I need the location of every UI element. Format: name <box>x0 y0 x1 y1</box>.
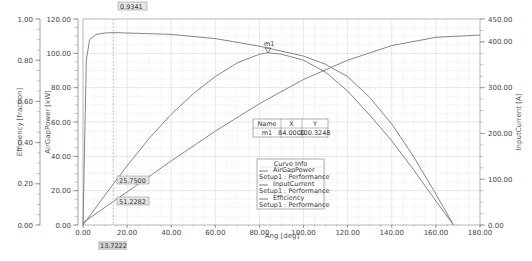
x-tick-label: 180.00 <box>468 229 493 237</box>
marker-table: Name X Y m1 84.0000 100.3248 <box>253 119 331 137</box>
inputcurrent-tick-label: 400.00 <box>488 38 513 46</box>
inputcurrent-tick-label: 450.00 <box>488 16 513 24</box>
svg-text:m1: m1 <box>264 40 274 48</box>
svg-text:13.7222: 13.7222 <box>100 242 127 250</box>
airgappower-tick-label: 40.00 <box>51 153 71 161</box>
marker-table-header-name: Name <box>257 120 276 128</box>
marker-m1[interactable]: m1 <box>264 40 274 53</box>
legend-curve-info[interactable]: Curve Info AirGapPower Setup1 : Performa… <box>257 159 330 209</box>
cursor-readout-inputcurrent: 51.2282 <box>117 197 149 206</box>
inputcurrent-tick-label: 0.00 <box>488 222 504 230</box>
marker-table-header-y: Y <box>312 120 317 128</box>
x-axis-title: Ang [deg] <box>265 232 300 240</box>
x-tick-label: 140.00 <box>380 229 405 237</box>
airgappower-tick-label: 0.00 <box>55 222 71 230</box>
cursor-readout-airgappower: 25.7500 <box>117 176 149 185</box>
airgappower-tick-label: 20.00 <box>51 187 71 195</box>
marker-table-cell: m1 <box>262 129 272 137</box>
svg-text:0.9341: 0.9341 <box>120 3 143 11</box>
inputcurrent-tick-label: 200.00 <box>488 130 513 138</box>
marker-table-header-x: X <box>289 120 294 128</box>
marker-table-cell: 100.3248 <box>299 129 330 137</box>
inputcurrent-tick-label: 100.00 <box>488 176 513 184</box>
x-tick-label: 120.00 <box>335 229 360 237</box>
cursor-x-readout: 13.7222 <box>98 241 127 250</box>
airgappower-tick-label: 100.00 <box>47 50 72 58</box>
airgappower-tick-label: 80.00 <box>51 84 71 92</box>
efficiency-axis-title: Efficiency [fraction] <box>16 88 24 157</box>
svg-text:51.2282: 51.2282 <box>119 198 146 206</box>
chart-canvas: 0.0020.0040.0060.0080.00100.00120.00140.… <box>0 0 532 261</box>
efficiency-tick-label: 0.00 <box>17 222 33 230</box>
cursor-readout-efficiency: 0.9341 <box>118 2 147 11</box>
inputcurrent-tick-label: 300.00 <box>488 84 513 92</box>
airgappower-tick-label: 120.00 <box>47 16 72 24</box>
airgappower-axis-title: AirGapPower [kW] <box>44 90 52 154</box>
inputcurrent-axis-title: InputCurrent [A] <box>515 93 523 150</box>
efficiency-tick-label: 1.00 <box>17 16 33 24</box>
x-tick-label: 20.00 <box>117 229 137 237</box>
legend-entry-setup: Setup1 : Performance <box>259 201 330 209</box>
svg-text:25.7500: 25.7500 <box>119 177 146 185</box>
efficiency-tick-label: 0.80 <box>17 57 33 65</box>
airgappower-tick-label: 60.00 <box>51 119 71 127</box>
x-tick-label: 0.00 <box>75 229 91 237</box>
x-tick-label: 160.00 <box>424 229 449 237</box>
efficiency-tick-label: 0.20 <box>17 180 33 188</box>
x-tick-label: 40.00 <box>161 229 181 237</box>
x-tick-label: 60.00 <box>205 229 225 237</box>
